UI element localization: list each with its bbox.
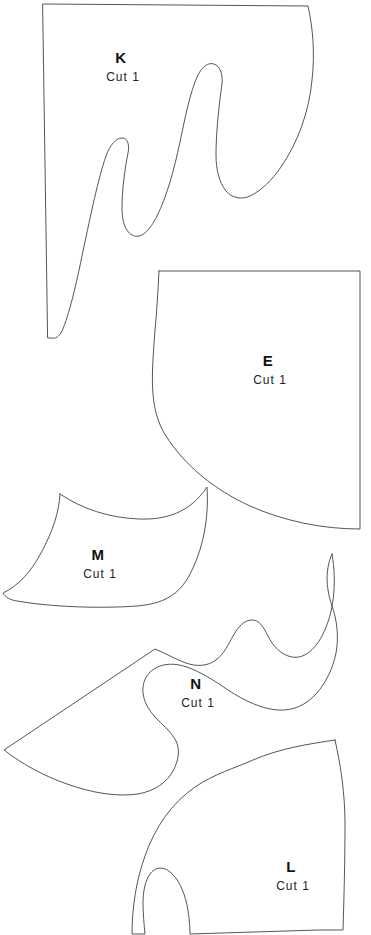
piece-e-outline[interactable]: [152, 271, 360, 529]
pattern-pieces-canvas: K Cut 1 E Cut 1 M Cut 1 N Cut 1 L Cut 1: [0, 0, 371, 935]
piece-m-outline[interactable]: [3, 487, 207, 607]
piece-n-cut-note: Cut 1: [181, 696, 215, 710]
piece-k-cut-note: Cut 1: [106, 70, 140, 84]
pattern-piece-m[interactable]: M Cut 1: [3, 487, 207, 607]
piece-l-letter: L: [286, 858, 296, 875]
piece-e-letter: E: [263, 352, 274, 369]
piece-l-cut-note: Cut 1: [276, 879, 310, 893]
piece-e-cut-note: Cut 1: [253, 373, 287, 387]
piece-n-letter: N: [190, 675, 201, 692]
piece-k-letter: K: [115, 49, 126, 66]
piece-m-letter: M: [92, 546, 105, 563]
pattern-sheet: K Cut 1 E Cut 1 M Cut 1 N Cut 1 L Cut 1: [0, 0, 371, 935]
pattern-piece-e[interactable]: E Cut 1: [152, 271, 360, 529]
piece-m-cut-note: Cut 1: [83, 567, 117, 581]
